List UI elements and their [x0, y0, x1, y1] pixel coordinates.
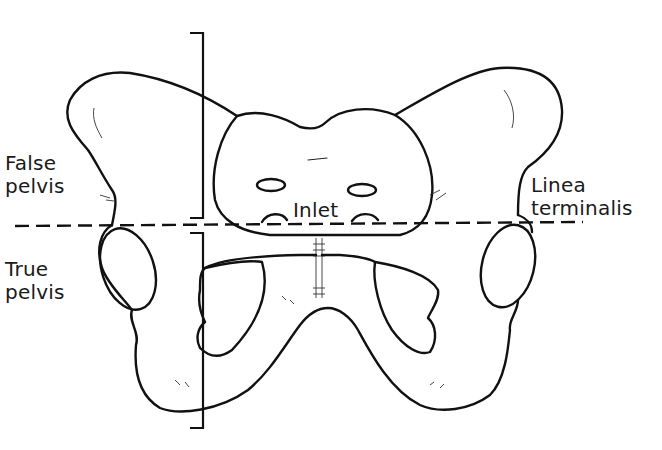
true-pelvis-label-line2: pelvis	[5, 281, 65, 304]
true-pelvis-label: True pelvis	[5, 258, 65, 304]
sacral-notch-left	[262, 214, 287, 222]
pelvis-diagram: False pelvis True pelvis Inlet Linea ter…	[0, 0, 662, 450]
linea-terminalis-label-line1: Linea	[531, 174, 633, 197]
pubic-symphysis	[313, 238, 325, 298]
right-obturator-foramen	[374, 262, 438, 353]
left-obturator-foramen	[198, 261, 265, 356]
false-pelvis-label: False pelvis	[5, 152, 65, 198]
left-ischiopubic-outline	[99, 225, 518, 411]
sacral-mark	[308, 158, 327, 160]
inlet-label: Inlet	[293, 199, 338, 222]
pelvic-brim-dashed-line	[15, 222, 583, 226]
right-acetabulum	[473, 219, 544, 313]
sacral-foramen-right	[348, 184, 376, 196]
left-iliac-wing	[67, 73, 237, 225]
inlet-label-text: Inlet	[293, 199, 338, 222]
false-pelvis-label-line1: False	[5, 152, 65, 175]
false-pelvis-bracket	[190, 33, 203, 218]
sacral-foramen-left	[257, 179, 285, 191]
right-pubic-ramus-upper	[322, 255, 375, 262]
true-pelvis-bracket	[190, 233, 203, 428]
linea-terminalis-label-line2: terminalis	[531, 197, 633, 220]
pelvis-illustration	[0, 0, 662, 450]
sacral-notch-right	[352, 214, 378, 221]
true-pelvis-label-line1: True	[5, 258, 65, 281]
false-pelvis-label-line2: pelvis	[5, 175, 65, 198]
linea-terminalis-label: Linea terminalis	[531, 174, 633, 220]
